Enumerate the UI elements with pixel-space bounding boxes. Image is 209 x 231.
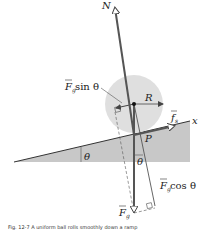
svg-text:sin θ: sin θ	[75, 81, 99, 92]
svg-text:g: g	[126, 212, 130, 220]
label-fg-cos: F g cos θ	[159, 179, 196, 193]
figure-caption: Fig. 12-7 A uniform ball rolls smoothly …	[8, 224, 137, 231]
label-radius: R	[144, 92, 153, 103]
fg-cos-dashed	[134, 208, 155, 213]
label-normal: N	[101, 0, 112, 11]
label-friction: f s	[170, 111, 178, 124]
label-fg-sin: F g sin θ	[64, 80, 99, 94]
svg-text:s: s	[175, 117, 178, 124]
label-contact-point: P	[144, 133, 152, 144]
label-theta-vertical: θ	[137, 156, 143, 167]
label-theta-incline: θ	[84, 151, 90, 162]
right-angle-bottom	[146, 203, 152, 209]
svg-text:cos θ: cos θ	[170, 180, 196, 191]
label-x-axis: x	[192, 115, 198, 126]
rolling-ball-diagram: N R x f s P θ θ F g sin θ F g cos θ F g …	[0, 0, 209, 231]
center-of-mass	[132, 102, 136, 106]
label-fg: F g	[118, 206, 130, 220]
